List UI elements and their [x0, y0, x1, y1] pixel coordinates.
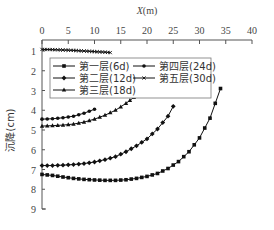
x-tick-label: 5: [66, 25, 71, 36]
x-tick-label: 40: [247, 25, 257, 36]
x-tick-label: 0: [40, 25, 45, 36]
legend-item-3: 第三层(18d): [79, 84, 136, 96]
x-tick-label: 30: [195, 25, 205, 36]
y-tick-label: 7: [31, 165, 36, 176]
series-4: [40, 107, 96, 120]
x-tick-label: 15: [116, 25, 126, 36]
y-tick-label: 4: [31, 105, 36, 116]
settlement-chart: 0510152025303540123456789X(m)沉降(cm)第一层(6…: [0, 0, 274, 230]
legend-item-5: 第五层(30d): [159, 72, 216, 84]
y-tick-label: 1: [31, 46, 36, 57]
x-tick-label: 10: [90, 25, 100, 36]
y-tick-label: 6: [31, 145, 36, 156]
legend-item-2: 第二层(12d): [79, 72, 136, 84]
legend-item-1: 第一层(6d): [79, 60, 130, 72]
legend: 第一层(6d)第二层(12d)第三层(18d)第四层(24d)第五层(30d): [50, 58, 216, 98]
axes: 0510152025303540123456789X(m)沉降(cm): [4, 5, 257, 215]
legend-item-4: 第四层(24d): [159, 60, 216, 72]
y-axis-label: 沉降(cm): [4, 108, 16, 151]
series-5: [40, 48, 111, 54]
y-tick-label: 2: [31, 66, 36, 77]
y-tick-label: 9: [31, 204, 36, 215]
y-tick-label: 8: [31, 184, 36, 195]
x-axis-label: X(m): [136, 5, 158, 17]
y-tick-label: 5: [31, 125, 36, 136]
x-tick-label: 25: [168, 25, 178, 36]
x-tick-label: 20: [142, 25, 152, 36]
y-tick-label: 3: [31, 86, 36, 97]
x-tick-label: 35: [221, 25, 231, 36]
